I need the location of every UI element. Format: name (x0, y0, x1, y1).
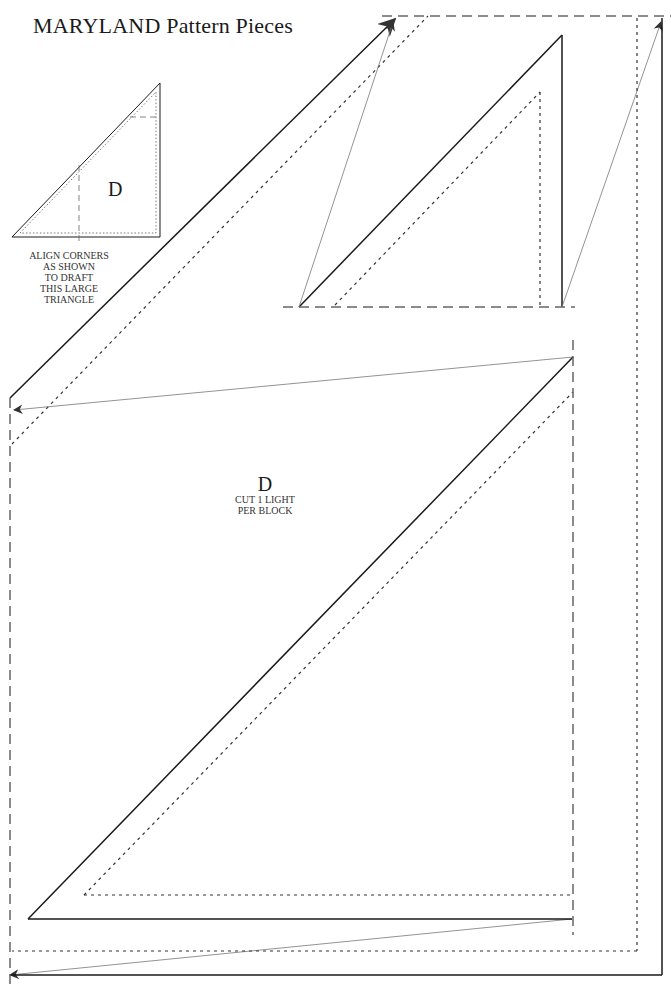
thumbnail-piece-label: D (108, 178, 122, 201)
note-line: ALIGN CORNERS (8, 250, 130, 261)
note-line: AS SHOWN (8, 261, 130, 272)
note-line: THIS LARGE (8, 283, 130, 294)
main-piece-label: D (220, 474, 310, 494)
thumbnail-triangle (12, 83, 160, 245)
large-triangle-piece (28, 340, 573, 935)
pattern-diagram (0, 0, 671, 986)
instruction-line: CUT 1 LIGHT (210, 494, 320, 505)
upper-triangle-piece (283, 35, 575, 307)
instruction-line: PER BLOCK (210, 505, 320, 516)
note-line: TRIANGLE (8, 294, 130, 305)
cut-instructions: CUT 1 LIGHT PER BLOCK (210, 494, 320, 516)
note-line: TO DRAFT (8, 272, 130, 283)
align-corners-note: ALIGN CORNERS AS SHOWN TO DRAFT THIS LAR… (8, 250, 130, 305)
